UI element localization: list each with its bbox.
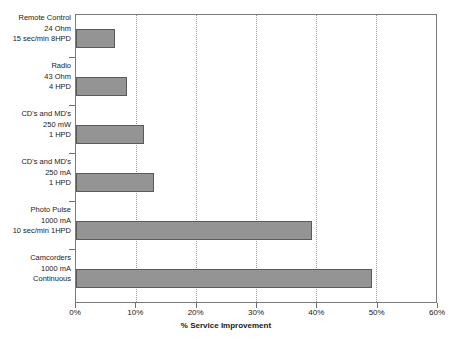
category-label-cds-mds-250ma: CD's and MD's 250 mA 1 HPD: [0, 157, 71, 189]
category-label-line: Photo Pulse: [0, 205, 71, 216]
category-label-line: 250 mW: [0, 120, 71, 131]
category-label-cds-mds-250mw: CD's and MD's 250 mW 1 HPD: [0, 109, 71, 141]
y-axis-tick: [69, 153, 75, 154]
category-label-line: Remote Control: [0, 13, 71, 24]
x-axis-tick-label-40: 40%: [296, 308, 336, 318]
category-label-line: 24 Ohm: [0, 24, 71, 35]
y-axis-tick: [69, 57, 75, 58]
category-label-line: CD's and MD's: [0, 109, 71, 120]
category-label-radio: Radio 43 Ohm 4 HPD: [0, 61, 71, 93]
category-label-line: 250 mA: [0, 168, 71, 179]
category-label-line: 1000 mA: [0, 264, 71, 275]
category-label-line: CD's and MD's: [0, 157, 71, 168]
category-label-line: 4 HPD: [0, 82, 71, 93]
bar-radio: [76, 77, 127, 96]
y-axis-tick: [69, 105, 75, 106]
category-label-line: 43 Ohm: [0, 72, 71, 83]
category-label-line: 1 HPD: [0, 130, 71, 141]
category-label-line: 1000 mA: [0, 216, 71, 227]
x-axis-title: % Service Improvement: [0, 321, 452, 330]
bar-chart-figure: Remote Control 24 Ohm 15 sec/min 8HPD Ra…: [0, 0, 452, 340]
gridline-20: [196, 15, 197, 302]
x-axis-tick-label-20: 20%: [176, 308, 216, 318]
x-axis-tick-label-60: 60%: [417, 308, 452, 318]
category-label-line: 15 sec/min 8HPD: [0, 34, 71, 45]
category-label-line: Continuous: [0, 274, 71, 285]
gridline-50: [376, 15, 377, 302]
y-axis-tick: [69, 201, 75, 202]
bar-cds-mds-250mw: [76, 125, 144, 144]
bar-remote-control: [76, 29, 115, 48]
x-axis-tick-label-0: 0%: [55, 308, 95, 318]
category-label-line: Radio: [0, 61, 71, 72]
bar-photo-pulse: [76, 221, 312, 240]
category-label-line: 1 HPD: [0, 178, 71, 189]
y-axis-tick: [69, 249, 75, 250]
x-axis-tick-label-50: 50%: [357, 308, 397, 318]
category-label-camcorders: Camcorders 1000 mA Continuous: [0, 253, 71, 285]
category-label-line: Camcorders: [0, 253, 71, 264]
x-axis-tick-label-30: 30%: [236, 308, 276, 318]
bar-camcorders: [76, 269, 372, 288]
bar-cds-mds-250ma: [76, 173, 154, 192]
gridline-30: [256, 15, 257, 302]
gridline-10: [136, 15, 137, 302]
x-axis-tick-label-10: 10%: [115, 308, 155, 318]
category-label-remote-control: Remote Control 24 Ohm 15 sec/min 8HPD: [0, 13, 71, 45]
category-label-photo-pulse: Photo Pulse 1000 mA 10 sec/min 1HPD: [0, 205, 71, 237]
gridline-40: [316, 15, 317, 302]
category-label-line: 10 sec/min 1HPD: [0, 226, 71, 237]
plot-area: [75, 14, 437, 303]
